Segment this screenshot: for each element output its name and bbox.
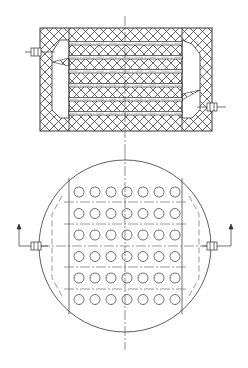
- hole: [90, 295, 100, 305]
- hole: [106, 252, 116, 262]
- hole: [170, 252, 180, 262]
- channel-row: [69, 84, 182, 88]
- hole: [106, 295, 116, 305]
- hole: [170, 230, 180, 240]
- hole: [170, 187, 180, 197]
- hole: [106, 187, 116, 197]
- right-plenum: [182, 40, 200, 118]
- hole: [138, 273, 148, 283]
- hole: [106, 230, 116, 240]
- hole: [122, 209, 132, 219]
- hole: [90, 230, 100, 240]
- section-view: [25, 16, 226, 150]
- hole: [106, 273, 116, 283]
- hole: [122, 230, 132, 240]
- channel-row: [69, 98, 182, 102]
- hole: [154, 209, 164, 219]
- channel-row: [69, 70, 182, 74]
- hole: [122, 252, 132, 262]
- nozzle-left-plan: [17, 224, 48, 250]
- hole: [154, 230, 164, 240]
- channel-row: [69, 112, 182, 116]
- hole: [138, 187, 148, 197]
- hole: [74, 209, 84, 219]
- hole: [74, 230, 84, 240]
- hole: [74, 252, 84, 262]
- hole: [154, 252, 164, 262]
- grid-centerlines: [40, 202, 212, 289]
- hole: [74, 295, 84, 305]
- hole: [90, 209, 100, 219]
- hole: [74, 273, 84, 283]
- hole: [122, 295, 132, 305]
- channel-row: [69, 42, 182, 46]
- hole: [138, 295, 148, 305]
- plan-view: [17, 150, 233, 350]
- hole: [170, 273, 180, 283]
- hole: [170, 295, 180, 305]
- hole: [154, 273, 164, 283]
- channel-row: [69, 56, 182, 60]
- hole: [122, 273, 132, 283]
- arrow-up-icon: [229, 224, 233, 229]
- hole: [154, 187, 164, 197]
- arrow-up-icon: [17, 224, 21, 229]
- hole: [90, 273, 100, 283]
- hole: [122, 187, 132, 197]
- hole: [138, 209, 148, 219]
- hole: [170, 209, 180, 219]
- hole: [138, 252, 148, 262]
- hole: [138, 230, 148, 240]
- hole: [154, 295, 164, 305]
- nozzle-right-plan: [202, 224, 233, 250]
- hole: [90, 252, 100, 262]
- technical-drawing: [0, 0, 248, 368]
- hole: [74, 187, 84, 197]
- hole: [106, 209, 116, 219]
- diagram-canvas: [0, 0, 248, 368]
- hole: [90, 187, 100, 197]
